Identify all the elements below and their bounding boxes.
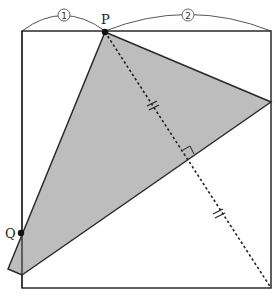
folded-square-diagram: 1 2 P Q bbox=[0, 0, 277, 298]
equal-tick-mark-2 bbox=[213, 209, 225, 218]
ratio-label-1: 1 bbox=[61, 11, 67, 21]
shaded-fold-region bbox=[8, 32, 271, 275]
ratio-label-2: 2 bbox=[185, 11, 191, 21]
label-p: P bbox=[101, 12, 110, 27]
point-q bbox=[18, 230, 24, 236]
point-p bbox=[102, 29, 108, 35]
label-q: Q bbox=[5, 226, 16, 241]
